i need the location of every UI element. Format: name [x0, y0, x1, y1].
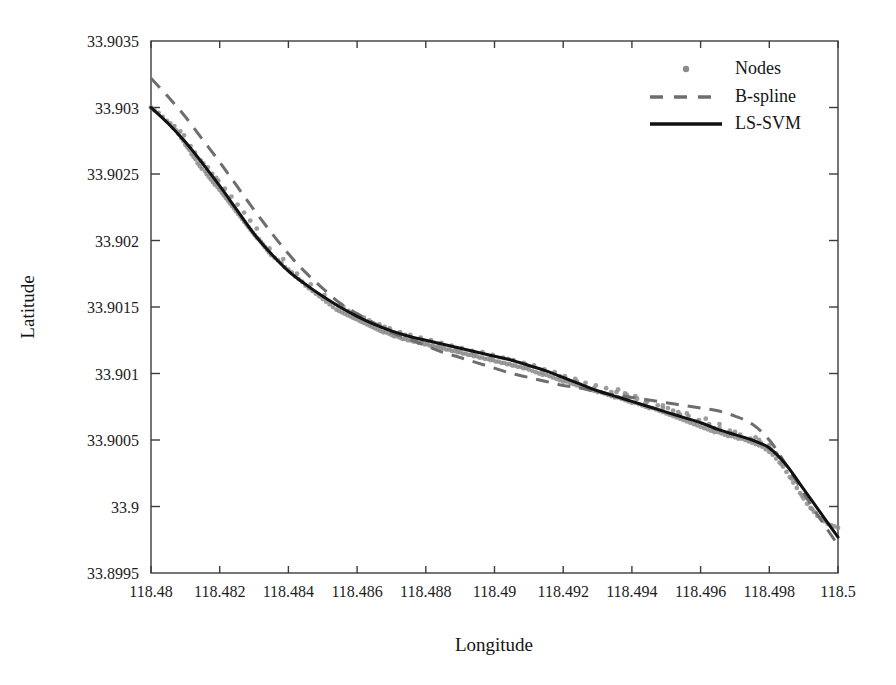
scatter-point [254, 226, 259, 231]
x-tick-label: 118.494 [606, 583, 657, 600]
x-tick-label: 118.498 [744, 583, 795, 600]
y-axis-tick-labels: 33.899533.933.900533.90133.901533.90233.… [87, 33, 139, 582]
y-tick-label: 33.9035 [87, 33, 139, 50]
scatter-point [717, 422, 722, 427]
scatter-point [281, 257, 286, 262]
scatter-point [684, 411, 689, 416]
y-axis-title: Latitude [17, 275, 38, 338]
x-tick-label: 118.496 [675, 583, 726, 600]
y-tick-label: 33.9025 [87, 166, 139, 183]
y-axis-ticks [151, 108, 838, 507]
bspline-curve [151, 78, 838, 545]
x-tick-label: 118.482 [194, 583, 245, 600]
series-bspline-line [151, 78, 838, 545]
legend-label: Nodes [735, 58, 781, 78]
x-tick-label: 118.49 [473, 583, 516, 600]
y-tick-label: 33.901 [95, 366, 139, 383]
scatter-point [666, 406, 671, 411]
lssvm-curve [151, 108, 838, 538]
scatter-point [604, 386, 609, 391]
scatter-point [810, 507, 815, 512]
y-tick-label: 33.9 [111, 499, 139, 516]
y-tick-label: 33.903 [95, 100, 139, 117]
scatter-point [703, 416, 708, 421]
scatter-point [784, 470, 789, 475]
scatter-point [836, 525, 841, 530]
series-nodes-scatter [149, 105, 841, 530]
x-tick-label: 118.48 [129, 583, 172, 600]
legend-dot-icon [683, 66, 689, 72]
legend-label: LS-SVM [735, 113, 801, 133]
x-axis-title: Longitude [455, 634, 533, 655]
x-tick-label: 118.492 [537, 583, 588, 600]
x-tick-label: 118.488 [400, 583, 451, 600]
x-tick-label: 118.484 [263, 583, 314, 600]
figure-container: 118.48118.482118.484118.486118.488118.49… [0, 0, 896, 685]
chart-legend: NodesB-splineLS-SVM [650, 58, 801, 133]
scatter-point [794, 485, 799, 490]
scatter-point [242, 210, 247, 215]
x-axis-tick-labels: 118.48118.482118.484118.486118.488118.49… [129, 583, 855, 600]
y-tick-label: 33.9015 [87, 299, 139, 316]
scatter-point [753, 435, 758, 440]
chart-canvas: 118.48118.482118.484118.486118.488118.49… [0, 0, 896, 685]
scatter-point [616, 387, 621, 392]
y-tick-label: 33.902 [95, 233, 139, 250]
y-tick-label: 33.9005 [87, 432, 139, 449]
y-tick-label: 33.8995 [87, 565, 139, 582]
x-tick-label: 118.5 [820, 583, 855, 600]
series-lssvm-line [151, 108, 838, 538]
scatter-point [660, 403, 665, 408]
scatter-point [248, 218, 253, 223]
x-tick-label: 118.486 [331, 583, 382, 600]
scatter-point [655, 403, 660, 408]
legend-label: B-spline [735, 86, 796, 106]
